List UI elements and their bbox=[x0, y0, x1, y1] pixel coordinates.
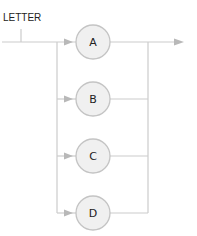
exit-arrow-icon bbox=[174, 39, 184, 46]
node-d-label: D bbox=[89, 207, 97, 220]
arrow-icon bbox=[64, 210, 73, 217]
arrow-icon bbox=[64, 153, 73, 160]
railroad-diagram: A B C D bbox=[0, 0, 197, 236]
arrow-icon bbox=[64, 39, 73, 46]
node-a-label: A bbox=[89, 36, 97, 49]
node-b-label: B bbox=[89, 93, 97, 106]
arrow-icon bbox=[64, 96, 73, 103]
node-c-label: C bbox=[89, 150, 97, 163]
